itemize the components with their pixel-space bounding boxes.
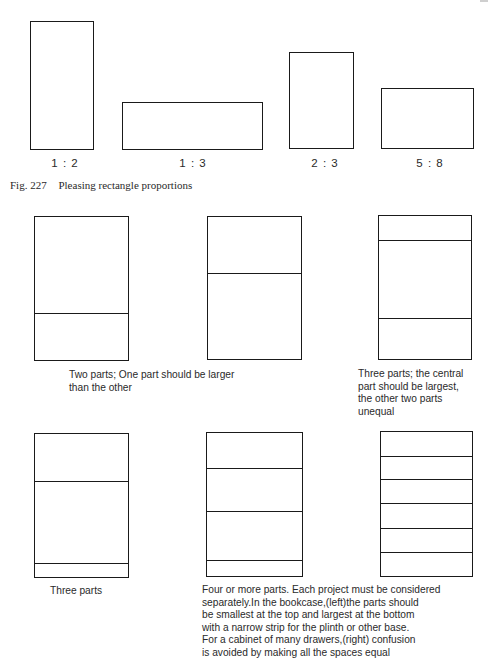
caption-three-parts: Three parts: [50, 585, 102, 598]
figure-caption: Fig. 227 Pleasing rectangle proportions: [10, 179, 192, 191]
figure-number: Fig. 227: [10, 179, 47, 191]
diagram-three-parts-central-largest: [378, 215, 472, 360]
rectangle-2-3: [289, 52, 354, 149]
divider-line: [208, 273, 301, 274]
divider-line: [35, 313, 128, 314]
divider-line: [207, 468, 302, 469]
caption-line: Three parts; the central: [358, 368, 498, 381]
divider-line: [207, 560, 302, 561]
caption-line: is avoided by making all the spaces equa…: [202, 647, 500, 660]
divider-line: [381, 456, 472, 457]
rectangle-5-8: [381, 88, 474, 149]
divider-line: [207, 511, 302, 512]
caption-line: For a cabinet of many drawers,(right) co…: [202, 634, 500, 647]
caption-line: the other two parts: [358, 393, 498, 406]
divider-line: [35, 563, 128, 564]
divider-line: [379, 240, 471, 241]
diagram-cabinet-of-drawers: [380, 431, 473, 577]
caption-line: unequal: [358, 406, 498, 419]
ratio-label: 1 : 3: [168, 157, 218, 169]
divider-line: [381, 503, 472, 504]
diagram-two-parts-lower-divider: [34, 216, 129, 361]
page-corner-mark: [480, 0, 488, 2]
diagram-bookcase: [206, 432, 303, 577]
divider-line: [381, 528, 472, 529]
divider-line: [381, 479, 472, 480]
caption-three-parts-central: Three parts; the central part should be …: [358, 368, 498, 418]
caption-line: part should be largest,: [358, 381, 498, 394]
ratio-label: 2 : 3: [300, 157, 350, 169]
caption-line: Four or more parts. Each project must be…: [202, 584, 500, 597]
ratio-label: 1 : 2: [40, 157, 90, 169]
diagram-three-parts-plinth: [34, 433, 129, 578]
divider-line: [35, 481, 128, 482]
caption-line: separately.In the bookcase,(left)the par…: [202, 597, 500, 610]
rectangle-1-2: [30, 21, 94, 150]
ratio-label: 5 : 8: [405, 157, 455, 169]
caption-line: with a narrow strip for the plinth or ot…: [202, 622, 500, 635]
caption-four-or-more: Four or more parts. Each project must be…: [202, 584, 500, 660]
diagram-two-parts-upper-divider: [207, 216, 302, 360]
caption-line: Two parts; One part should be larger: [69, 369, 289, 382]
caption-two-parts: Two parts; One part should be larger tha…: [69, 369, 289, 394]
rectangle-1-3: [122, 102, 263, 150]
figure-title: Pleasing rectangle proportions: [58, 179, 192, 191]
caption-line: than the other: [69, 382, 289, 395]
caption-line: be smallest at the top and largest at th…: [202, 609, 500, 622]
divider-line: [379, 318, 471, 319]
divider-line: [381, 552, 472, 553]
